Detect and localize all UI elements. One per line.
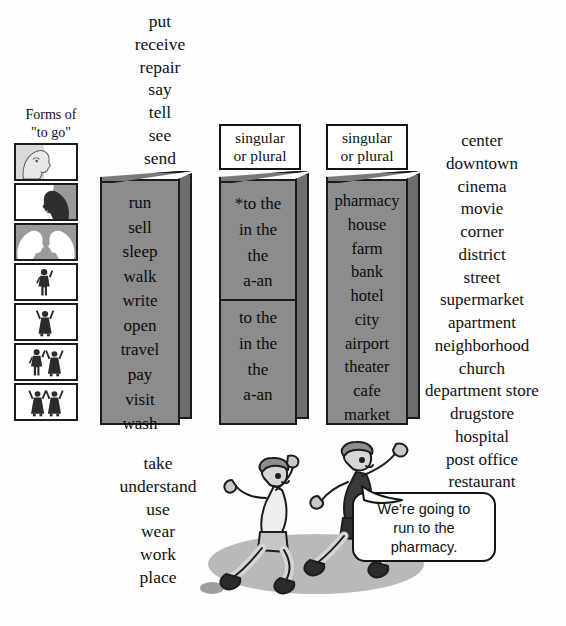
speech-line-3: pharmacy. [352,538,496,557]
header-line2: or plural [227,147,293,165]
word-item: hotel [326,284,408,308]
preposition-slab: *to the in the the a-an to the in the th… [219,171,311,427]
speech-line-2: run to the [352,519,496,538]
word-item: repair [96,56,224,79]
word-item: in the [219,217,297,243]
profile-dark-facing-left-icon [14,183,78,221]
word-item: put [96,10,224,33]
word-item: drugstore [398,403,566,426]
forms-of-to-go-label: Forms of "to go" [8,106,94,141]
forms-label-line1: Forms of [8,106,94,124]
preposition-slab-bottom-half: to the in the the a-an [219,305,297,408]
word-item: supermarket [398,289,566,312]
word-item: write [100,289,180,314]
word-item: say [96,78,224,101]
word-item: visit [100,388,180,413]
word-item: church [398,358,566,381]
slab-divider-line [219,299,297,301]
slab-side-face [178,173,192,419]
worksheet-canvas: Forms of "to go" [0,0,566,626]
word-item: neighborhood [398,335,566,358]
header-line2: or plural [334,147,400,165]
female-figure-single-icon [14,303,78,341]
word-item: sleep [100,240,180,265]
word-item: wash [100,412,180,437]
top-verb-list: put receive repair say tell see send [96,10,224,169]
word-item: corner [398,221,566,244]
forms-label-line2: "to go" [8,124,94,142]
verb-slab: run sell sleep walk write open travel pa… [100,171,196,427]
word-item: to the [219,305,297,331]
word-item: pay [100,363,180,388]
header-line1: singular [334,129,400,147]
word-item: walk [100,265,180,290]
profile-light-facing-right-icon [14,143,78,181]
word-item: bank [326,260,408,284]
word-item: sell [100,216,180,241]
word-item: city [326,308,408,332]
pronoun-icon-strip [14,143,80,423]
word-item: cinema [398,176,566,199]
header-line1: singular [227,129,293,147]
word-item: movie [398,198,566,221]
word-item: run [100,191,180,216]
singular-or-plural-box-2: singular or plural [326,124,408,170]
word-item: the [219,243,297,269]
singular-or-plural-box-1: singular or plural [219,124,301,170]
word-item: a-an [219,268,297,294]
word-item: airport [326,332,408,356]
word-item: pharmacy [326,189,408,213]
speech-line-1: We're going to [352,500,496,519]
word-item: apartment [398,312,566,335]
word-item: downtown [398,153,566,176]
word-item: farm [326,237,408,261]
word-item: tell [96,101,224,124]
word-item: market [326,403,408,427]
male-figure-single-icon [14,263,78,301]
word-item: send [96,147,224,170]
preposition-slab-top-half: *to the in the the a-an [219,191,297,294]
two-female-figures-icon [14,383,78,421]
slab-side-face [295,173,309,419]
word-item: the [219,357,297,383]
word-item: see [96,124,224,147]
speech-bubble: We're going to run to the pharmacy. [352,484,496,562]
word-item: receive [96,33,224,56]
word-item: house [326,213,408,237]
word-item: district [398,244,566,267]
word-item: *to the [219,191,297,217]
speech-bubble-text: We're going to run to the pharmacy. [352,500,496,557]
word-item: theater [326,355,408,379]
place-slab-words: pharmacy house farm bank hotel city airp… [326,189,408,427]
word-item: open [100,314,180,339]
two-profiles-facing-each-other-icon [14,223,78,261]
word-item: department store [398,380,566,403]
word-item: in the [219,331,297,357]
word-item: street [398,267,566,290]
male-and-female-figures-icon [14,343,78,381]
word-item: a-an [219,382,297,408]
word-item: travel [100,338,180,363]
word-item: cafe [326,379,408,403]
word-item: center [398,130,566,153]
verb-slab-words: run sell sleep walk write open travel pa… [100,191,180,437]
